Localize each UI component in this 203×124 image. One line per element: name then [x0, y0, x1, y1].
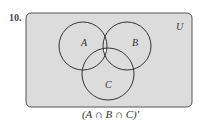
- universe-rectangle: [26, 13, 192, 107]
- venn-diagram: A B C U: [0, 0, 203, 124]
- label-a: A: [80, 37, 88, 48]
- label-c: C: [105, 79, 112, 90]
- label-b: B: [132, 37, 138, 48]
- caption: (A ∩ B ∩ C)′: [0, 108, 203, 120]
- label-universe: U: [176, 21, 184, 32]
